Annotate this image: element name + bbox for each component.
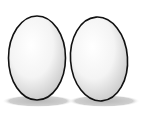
egg-right (68, 15, 131, 103)
egg-left (9, 16, 66, 100)
eggs-illustration (0, 0, 149, 115)
